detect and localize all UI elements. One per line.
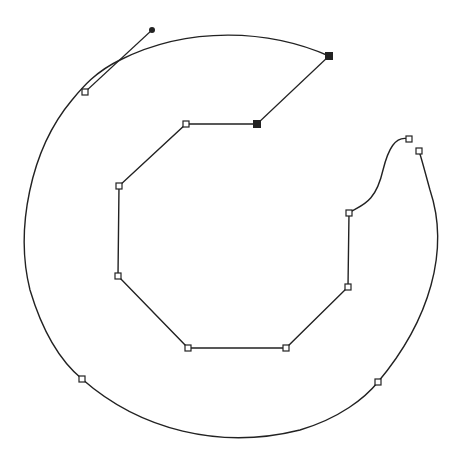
selected-anchor-point-icon[interactable] xyxy=(254,121,261,128)
anchor-point-icon[interactable] xyxy=(115,273,121,279)
path-editor-canvas[interactable] xyxy=(0,0,464,456)
anchor-point-icon[interactable] xyxy=(82,89,88,95)
anchor-point-icon[interactable] xyxy=(283,345,289,351)
anchor-point-icon[interactable] xyxy=(346,210,352,216)
anchor-point-icon[interactable] xyxy=(345,284,351,290)
inner-curve-path[interactable] xyxy=(349,138,409,213)
anchor-point-icon[interactable] xyxy=(185,345,191,351)
anchor-point-icon[interactable] xyxy=(79,376,85,382)
anchor-points[interactable] xyxy=(79,27,422,385)
selected-anchor-point-icon[interactable] xyxy=(326,53,333,60)
anchor-point-icon[interactable] xyxy=(183,121,189,127)
anchor-point-icon[interactable] xyxy=(406,136,412,142)
anchor-point-icon[interactable] xyxy=(416,148,422,154)
anchor-point-icon[interactable] xyxy=(116,183,122,189)
control-handle-icon[interactable] xyxy=(149,27,155,33)
bezier-handle-line xyxy=(85,30,152,92)
handle-lines xyxy=(85,30,152,92)
inner-polygon-path[interactable] xyxy=(118,124,349,348)
closing-segment[interactable] xyxy=(257,56,329,124)
anchor-point-icon[interactable] xyxy=(375,379,381,385)
